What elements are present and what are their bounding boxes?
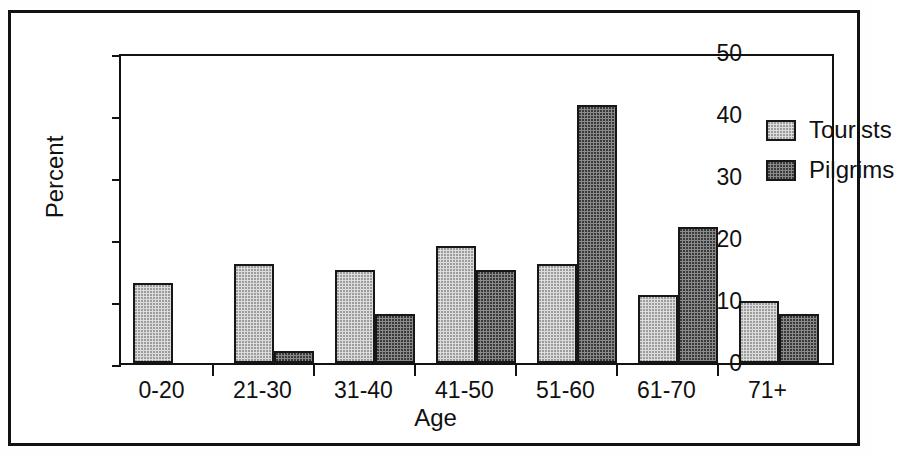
x-tick-label-21-30: 21-30 [212, 379, 313, 402]
x-tick-6 [717, 365, 719, 376]
y-tick-label-50: 50 [694, 42, 742, 65]
bar-tourists-41-50 [436, 246, 476, 363]
x-tick-label-31-40: 31-40 [313, 379, 414, 402]
legend-item-tourists: Tourists [766, 110, 898, 150]
y-tick-30 [112, 179, 121, 181]
legend-item-pilgrims: Pilgrims [766, 150, 898, 190]
y-tick-0 [112, 365, 121, 367]
legend-label-tourists: Tourists [809, 118, 892, 142]
legend: Tourists Pilgrims [766, 110, 898, 190]
x-axis-title: Age [0, 404, 871, 432]
x-tick-label-41-50: 41-50 [414, 379, 515, 402]
bar-pilgrims-51-60 [577, 105, 617, 363]
bar-pilgrims-31-40 [375, 314, 415, 363]
y-tick-10 [112, 303, 121, 305]
legend-label-pilgrims: Pilgrims [809, 158, 894, 182]
x-tick-4 [515, 365, 517, 376]
legend-swatch-pilgrims [766, 160, 796, 181]
y-tick-20 [112, 241, 121, 243]
y-tick-40 [112, 117, 121, 119]
x-tick-label-71: 71+ [717, 379, 818, 402]
figure-border: Tourists Pilgrims 50 40 30 20 10 0 0-20 … [8, 10, 860, 446]
x-tick-label-0-20: 0-20 [111, 379, 212, 402]
x-tick-3 [414, 365, 416, 376]
y-tick-label-30: 30 [694, 166, 742, 189]
bar-tourists-51-60 [537, 264, 577, 363]
y-tick-50 [112, 55, 121, 57]
bar-tourists-61-70 [638, 295, 678, 363]
bar-tourists-21-30 [234, 264, 274, 363]
legend-swatch-tourists [766, 120, 796, 141]
bar-tourists-0-20 [133, 283, 173, 363]
bar-pilgrims-41-50 [476, 270, 516, 363]
bar-pilgrims-21-30 [274, 351, 314, 363]
y-axis-title: Percent [41, 97, 69, 257]
bar-tourists-71 [739, 301, 779, 363]
y-tick-label-10: 10 [694, 290, 742, 313]
x-tick-5 [616, 365, 618, 376]
x-tick-label-51-60: 51-60 [515, 379, 616, 402]
x-tick-label-61-70: 61-70 [616, 379, 717, 402]
plot-area: Tourists Pilgrims [119, 54, 834, 365]
x-tick-2 [313, 365, 315, 376]
bar-pilgrims-71 [779, 314, 819, 363]
x-tick-1 [212, 365, 214, 376]
bar-tourists-31-40 [335, 270, 375, 363]
y-tick-label-40: 40 [694, 104, 742, 127]
y-tick-label-20: 20 [694, 228, 742, 251]
